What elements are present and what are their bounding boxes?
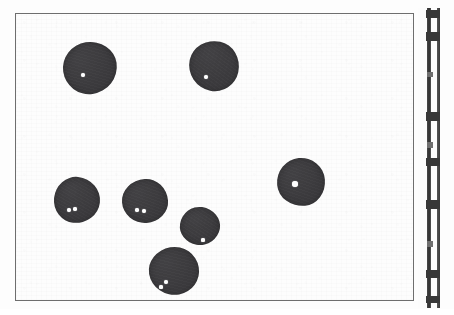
specular-highlight [292,181,298,187]
specular-highlight [67,208,71,212]
specular-highlight [81,73,85,77]
specular-highlight [142,209,146,213]
ruler-tick-major [426,200,440,209]
specular-highlight [201,238,204,241]
ruler-tick-major [426,270,440,278]
ruler-tick-major [426,296,440,303]
photographic-field-frame [15,13,414,301]
specular-highlight [159,285,162,288]
specular-highlight [135,208,138,211]
specular-highlight [73,207,76,210]
ruler-tick-major [426,112,440,121]
page-bottom-edge [0,309,454,315]
ruler-tick-minor [427,142,433,148]
specular-highlight [164,280,168,284]
screenshot-root [0,0,454,315]
ruler-tick-minor [427,241,433,247]
ruler-scale-strip [418,8,440,308]
ruler-tick-minor [427,72,433,77]
ruler-tick-major [426,10,440,18]
ruler-tick-major [426,32,440,41]
ruler-tick-major [426,158,440,166]
